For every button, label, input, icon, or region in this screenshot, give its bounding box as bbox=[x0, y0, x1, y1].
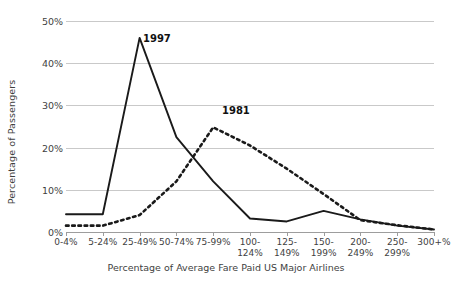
x-axis-tick bbox=[213, 232, 214, 236]
x-axis-tick-label: 50-74% bbox=[159, 237, 194, 248]
chart-container: Percentage of Passengers 0%10%20%30%40%5… bbox=[0, 0, 452, 284]
x-axis-tick-label: 200- 249% bbox=[348, 237, 374, 259]
x-axis-tick bbox=[140, 232, 141, 236]
x-axis-tick-label: 250- 299% bbox=[384, 237, 410, 259]
series-line-1997 bbox=[66, 38, 434, 230]
series-line-1981 bbox=[66, 127, 434, 229]
x-axis-title: Percentage of Average Fare Paid US Major… bbox=[0, 262, 452, 273]
x-axis-tick bbox=[287, 232, 288, 236]
series-label-1997: 1997 bbox=[143, 33, 171, 44]
x-axis-tick bbox=[360, 232, 361, 236]
x-axis-tick bbox=[176, 232, 177, 236]
x-axis-tick-label: 75-99% bbox=[196, 237, 231, 248]
x-axis-tick-label: 100- 124% bbox=[237, 237, 263, 259]
series-label-1981: 1981 bbox=[222, 105, 250, 116]
x-axis-tick bbox=[250, 232, 251, 236]
x-axis-tick bbox=[66, 232, 67, 236]
x-axis-tick bbox=[434, 232, 435, 236]
x-axis-tick-label: 5-24% bbox=[88, 237, 117, 248]
x-axis-tick-label: 125- 149% bbox=[274, 237, 300, 259]
x-axis-tick-label: 150- 199% bbox=[311, 237, 337, 259]
x-axis-tick bbox=[324, 232, 325, 236]
x-axis-tick bbox=[103, 232, 104, 236]
x-axis-tick-label: 25-49% bbox=[122, 237, 157, 248]
x-axis-tick bbox=[397, 232, 398, 236]
x-axis-tick-label: 0-4% bbox=[54, 237, 77, 248]
x-axis-tick-label: 300+% bbox=[417, 237, 450, 248]
